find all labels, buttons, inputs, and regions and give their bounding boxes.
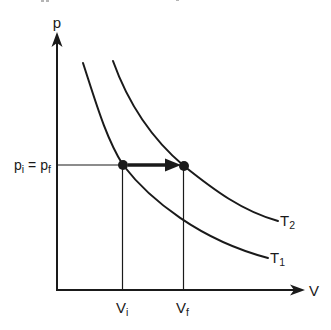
pv-diagram-figure: p V pi=pf Vi Vf T2 T1: [0, 0, 331, 330]
isotherm-t2-label: T2: [280, 212, 295, 231]
scan-artifact: [176, 0, 179, 1]
isotherm-t1-curve: [83, 63, 268, 258]
scan-artifact: [46, 0, 49, 2]
pv-diagram-canvas: p V pi=pf Vi Vf T2 T1: [0, 0, 331, 330]
vi-tick-label: Vi: [116, 299, 128, 318]
pressure-label: pi=pf: [14, 157, 51, 175]
final-state-point: [179, 161, 189, 171]
isotherm-t2-curve: [113, 61, 278, 221]
p-axis-label: p: [53, 14, 61, 31]
v-axis-label: V: [309, 282, 319, 299]
vf-tick-label: Vf: [176, 299, 189, 318]
isotherm-t1-label: T1: [270, 249, 285, 268]
initial-state-point: [118, 160, 128, 170]
scan-artifact: [41, 0, 44, 2]
